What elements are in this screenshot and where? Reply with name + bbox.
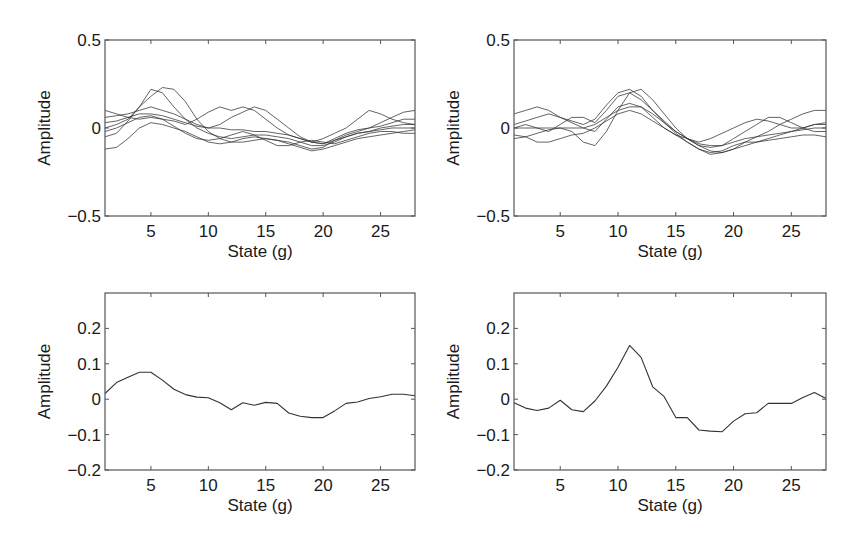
x-axis-label: State (g) xyxy=(227,242,292,261)
line-series-trace-3 xyxy=(514,89,826,152)
x-tick-label: 15 xyxy=(666,222,685,241)
panel-bottom-right: 510152025−0.2−0.100.10.2State (g)Amplitu… xyxy=(444,293,826,515)
y-tick-label: 0.2 xyxy=(77,319,101,338)
line-series-mean xyxy=(105,372,415,417)
figure: 510152025−0.500.5State (g)Amplitude 5101… xyxy=(0,0,859,548)
x-tick-label: 25 xyxy=(782,476,801,495)
y-tick-label: 0.1 xyxy=(486,355,510,374)
y-tick-label: −0.5 xyxy=(67,207,101,226)
x-axis-label: State (g) xyxy=(637,496,702,515)
y-tick-label: −0.2 xyxy=(67,461,101,480)
x-tick-label: 10 xyxy=(609,222,628,241)
y-tick-label: 0 xyxy=(92,119,101,138)
y-tick-label: 0 xyxy=(501,390,510,409)
x-axis-label: State (g) xyxy=(227,496,292,515)
y-tick-label: 0 xyxy=(92,390,101,409)
y-tick-label: 0 xyxy=(501,119,510,138)
y-tick-label: −0.5 xyxy=(476,207,510,226)
y-tick-label: −0.1 xyxy=(476,426,510,445)
line-series-trace-5 xyxy=(105,123,415,151)
x-tick-label: 20 xyxy=(724,222,743,241)
axes-frame xyxy=(105,293,415,470)
x-tick-label: 10 xyxy=(199,222,218,241)
line-series-trace-7 xyxy=(105,116,415,146)
x-tick-label: 15 xyxy=(256,222,275,241)
x-tick-label: 15 xyxy=(666,476,685,495)
y-tick-label: 0.5 xyxy=(486,31,510,50)
line-series-trace-3 xyxy=(105,88,415,150)
axes-frame xyxy=(514,293,826,470)
x-tick-label: 15 xyxy=(256,476,275,495)
y-axis-label: Amplitude xyxy=(444,344,463,420)
y-tick-label: 0.1 xyxy=(77,355,101,374)
x-tick-label: 10 xyxy=(199,476,218,495)
x-tick-label: 5 xyxy=(146,222,155,241)
line-series-trace-2 xyxy=(514,89,826,154)
x-tick-label: 20 xyxy=(724,476,743,495)
x-tick-label: 5 xyxy=(146,476,155,495)
x-tick-label: 25 xyxy=(782,222,801,241)
x-tick-label: 25 xyxy=(371,222,390,241)
x-tick-label: 20 xyxy=(314,476,333,495)
x-tick-label: 10 xyxy=(609,476,628,495)
y-tick-label: −0.1 xyxy=(67,426,101,445)
y-tick-label: −0.2 xyxy=(476,461,510,480)
line-series-trace-6 xyxy=(514,93,826,148)
y-tick-label: 0.5 xyxy=(77,31,101,50)
panel-top-right: 510152025−0.500.5State (g)Amplitude xyxy=(444,31,826,261)
y-axis-label: Amplitude xyxy=(35,344,54,420)
line-series-trace-5 xyxy=(514,110,826,152)
panel-bottom-left: 510152025−0.2−0.100.10.2State (g)Amplitu… xyxy=(35,293,415,515)
panel-top-left: 510152025−0.500.5State (g)Amplitude xyxy=(35,31,415,261)
x-tick-label: 5 xyxy=(555,222,564,241)
x-tick-label: 25 xyxy=(371,476,390,495)
y-axis-label: Amplitude xyxy=(35,90,54,166)
x-axis-label: State (g) xyxy=(637,242,702,261)
line-series-trace-6 xyxy=(105,107,415,144)
line-series-trace-4 xyxy=(514,103,826,142)
x-tick-label: 5 xyxy=(555,476,564,495)
y-axis-label: Amplitude xyxy=(444,90,463,166)
y-tick-label: 0.2 xyxy=(486,319,510,338)
x-tick-label: 20 xyxy=(314,222,333,241)
line-series-mean xyxy=(514,345,826,431)
